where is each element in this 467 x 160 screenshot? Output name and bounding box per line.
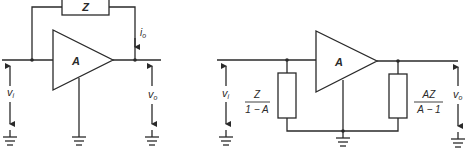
ground-icon xyxy=(219,137,233,145)
left-circuit: Z io A vi vo xyxy=(2,0,161,145)
feedback-wire-right xyxy=(109,7,135,60)
ground-icon xyxy=(451,139,465,147)
miller-theorem-diagram: Z io A vi vo xyxy=(0,0,467,160)
output-node xyxy=(133,58,137,62)
input-voltage-label: vi xyxy=(7,86,15,99)
output-impedance-box xyxy=(389,74,407,118)
input-impedance-numerator: Z xyxy=(253,89,261,100)
input-node xyxy=(30,58,34,62)
ground-icon xyxy=(72,137,86,145)
right-circuit: A Z 1 − A AZ A − 1 vi xyxy=(217,31,465,147)
ground-icon xyxy=(336,138,350,146)
output-voltage-label: vo xyxy=(148,88,158,101)
input-impedance-box xyxy=(278,73,296,118)
output-impedance-denominator: A − 1 xyxy=(416,104,440,115)
amplifier-gain-label: A xyxy=(71,55,80,67)
output-impedance-numerator: AZ xyxy=(422,89,437,100)
ground-icon xyxy=(145,137,159,145)
output-current-label: io xyxy=(140,27,146,39)
ground-icon xyxy=(3,137,17,145)
output-voltage-label: vo xyxy=(453,88,463,101)
input-impedance-denominator: 1 − A xyxy=(245,104,269,115)
feedback-impedance-label: Z xyxy=(81,1,90,13)
amplifier-triangle xyxy=(53,30,113,90)
amplifier-triangle xyxy=(316,31,377,92)
input-voltage-label: vi xyxy=(222,87,230,100)
amplifier-gain-label: A xyxy=(334,56,343,68)
